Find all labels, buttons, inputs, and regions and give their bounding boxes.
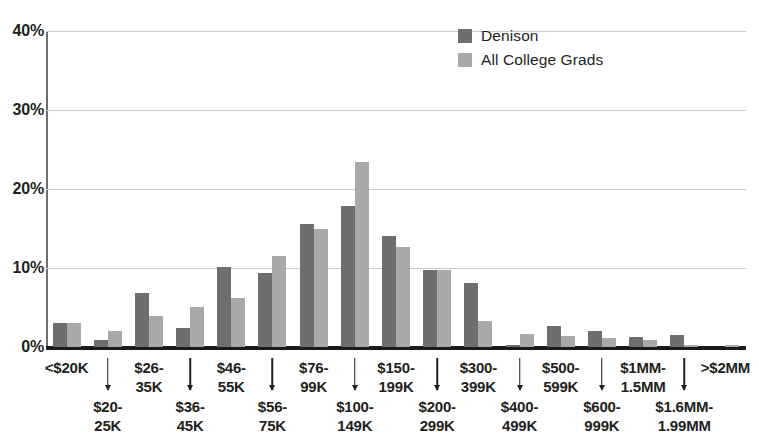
- x-axis-label-upper: $76-99K: [271, 358, 357, 396]
- x-axis-label-lower: $200-299K: [391, 397, 483, 435]
- x-axis-label-upper: $46-55K: [188, 358, 274, 396]
- x-axis-label-line1: $150-: [377, 359, 414, 376]
- x-axis-label-lower: $400-499K: [474, 397, 566, 435]
- x-axis-label-line1: $36-: [175, 398, 204, 415]
- x-axis-label-lower: $600-999K: [556, 397, 648, 435]
- arrow-head: [517, 385, 523, 391]
- x-axis-label-upper: $150-199K: [353, 358, 439, 396]
- arrow-head: [187, 385, 193, 391]
- x-axis-label-line1: $200-: [418, 398, 455, 415]
- x-axis-label-line2: 999K: [556, 416, 648, 435]
- x-axis-label-line2: 599K: [518, 377, 604, 396]
- x-axis-label-upper: >$2MM: [682, 358, 759, 377]
- x-axis-label-line1: $300-: [460, 359, 497, 376]
- x-axis-tick-arrow-icon: [514, 358, 526, 390]
- income-distribution-bar-chart: 0%10%20%30%40% Denison All College Grads…: [0, 0, 759, 440]
- x-axis-label-line2: 25K: [62, 416, 154, 435]
- x-axis-label-line2: 99K: [271, 377, 357, 396]
- x-axis-label-line1: <$20K: [45, 359, 89, 376]
- x-axis-label-line2: 299K: [391, 416, 483, 435]
- x-axis-label-line2: 35K: [106, 377, 192, 396]
- x-axis-tick-arrow-icon: [102, 358, 114, 390]
- x-axis-label-upper: <$20K: [24, 358, 110, 377]
- x-axis-label-line1: $26-: [134, 359, 163, 376]
- x-axis-label-line1: $20-: [93, 398, 122, 415]
- arrow-head: [105, 385, 111, 391]
- x-axis-label-line1: $100-: [336, 398, 373, 415]
- x-axis-label-line1: >$2MM: [701, 359, 750, 376]
- x-axis-label-lower: $36-45K: [144, 397, 236, 435]
- arrow-head: [352, 385, 358, 391]
- x-axis-tick-arrow-icon: [349, 358, 361, 390]
- x-axis-label-upper: $26-35K: [106, 358, 192, 396]
- x-axis-tick-arrow-icon: [184, 358, 196, 390]
- x-axis-label-line1: $56-: [258, 398, 287, 415]
- x-axis-label-line1: $76-: [299, 359, 328, 376]
- x-axis-label-line2: 55K: [188, 377, 274, 396]
- x-axis-label-line2: 1.5MM: [600, 377, 686, 396]
- x-axis-label-line1: $500-: [542, 359, 579, 376]
- x-axis-label-upper: $500-599K: [518, 358, 604, 396]
- arrow-head: [434, 385, 440, 391]
- x-axis-label-line2: 499K: [474, 416, 566, 435]
- x-axis-label-lower: $20-25K: [62, 397, 154, 435]
- x-axis-label-line1: $400-: [501, 398, 538, 415]
- x-axis-tick-arrow-icon: [431, 358, 443, 390]
- x-axis-label-line2: 45K: [144, 416, 236, 435]
- x-axis-label-upper: $1MM-1.5MM: [600, 358, 686, 396]
- x-axis-label-line2: 199K: [353, 377, 439, 396]
- arrow-head: [599, 385, 605, 391]
- x-axis-tick-arrow-icon: [266, 358, 278, 390]
- x-axis-label-lower: $56-75K: [226, 397, 318, 435]
- arrow-head: [681, 385, 687, 391]
- x-axis-label-upper: $300-399K: [435, 358, 521, 396]
- x-axis-label-line2: 149K: [309, 416, 401, 435]
- x-axis-label-line2: 399K: [435, 377, 521, 396]
- x-axis-label-line1: $1.6MM-: [655, 398, 713, 415]
- x-axis-label-line1: $46-: [217, 359, 246, 376]
- x-axis-tick-arrow-icon: [678, 358, 690, 390]
- arrow-head: [269, 385, 275, 391]
- x-axis-label-line2: 1.99MM: [638, 416, 730, 435]
- x-axis-label-lower: $100-149K: [309, 397, 401, 435]
- x-axis-label-line2: 75K: [226, 416, 318, 435]
- x-axis-labels: <$20K$26-35K$46-55K$76-99K$150-199K$300-…: [0, 0, 759, 440]
- x-axis-label-line1: $1MM-: [620, 359, 666, 376]
- x-axis-label-line1: $600-: [583, 398, 620, 415]
- x-axis-tick-arrow-icon: [596, 358, 608, 390]
- x-axis-label-lower: $1.6MM-1.99MM: [638, 397, 730, 435]
